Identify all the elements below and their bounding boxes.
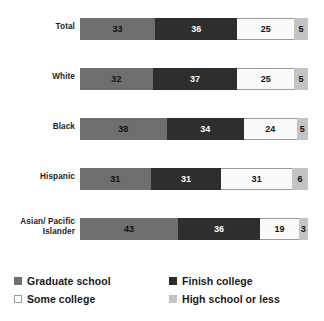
segment-high-school-or-less: 6 (292, 168, 308, 190)
bar-asian-pacific-islander: 43 36 19 3 (80, 218, 308, 240)
legend-label-some-college: Some college (27, 293, 95, 305)
legend-item-graduate-school: Graduate school (14, 275, 169, 287)
row-label-line: Total (56, 22, 75, 32)
row-label-line: Islander (20, 227, 75, 237)
legend-swatch-some-college (14, 295, 22, 303)
row-label-hispanic: Hispanic (0, 164, 75, 190)
legend-label-finish-college: Finish college (182, 275, 253, 287)
row-label-black: Black (0, 114, 75, 140)
segment-finish-college: 34 (167, 118, 245, 140)
chart-legend: Graduate school Finish college Some coll… (14, 272, 314, 308)
bar-white: 32 37 25 5 (80, 68, 308, 90)
row-label-line: White (52, 72, 75, 82)
segment-some-college: 25 (237, 18, 294, 40)
bar-black: 38 34 24 5 (80, 118, 308, 140)
segment-some-college: 24 (244, 118, 296, 140)
segment-graduate-school: 32 (80, 68, 153, 90)
segment-high-school-or-less: 5 (297, 118, 308, 140)
chart-row: Total 33 36 25 5 (0, 14, 324, 64)
segment-finish-college: 37 (153, 68, 237, 90)
row-label-asian-pacific-islander: Asian/ Pacific Islander (0, 210, 75, 244)
bar-hispanic: 31 31 31 6 (80, 168, 308, 190)
segment-some-college: 31 (221, 168, 292, 190)
stacked-bar-chart: Total 33 36 25 5 White 32 37 25 5 (0, 0, 324, 321)
segment-high-school-or-less: 5 (294, 68, 308, 90)
legend-swatch-finish-college (169, 277, 177, 285)
legend-item-finish-college: Finish college (169, 275, 324, 287)
segment-graduate-school: 31 (80, 168, 151, 190)
chart-row: Hispanic 31 31 31 6 (0, 164, 324, 214)
row-label-line: Hispanic (40, 172, 75, 182)
segment-finish-college: 36 (155, 18, 237, 40)
row-label-white: White (0, 64, 75, 90)
segment-some-college: 25 (237, 68, 294, 90)
segment-graduate-school: 38 (80, 118, 167, 140)
segment-some-college: 19 (260, 218, 299, 240)
legend-swatch-graduate-school (14, 277, 22, 285)
segment-finish-college: 36 (178, 218, 260, 240)
legend-label-high-school-or-less: High school or less (182, 293, 280, 305)
segment-graduate-school: 33 (80, 18, 155, 40)
segment-high-school-or-less: 5 (294, 18, 308, 40)
bar-total: 33 36 25 5 (80, 18, 308, 40)
chart-plot-area: Total 33 36 25 5 White 32 37 25 5 (0, 14, 324, 264)
segment-graduate-school: 43 (80, 218, 178, 240)
legend-label-graduate-school: Graduate school (27, 275, 111, 287)
row-label-line: Asian/ Pacific (20, 217, 75, 227)
legend-item-high-school-or-less: High school or less (169, 293, 324, 305)
segment-high-school-or-less: 3 (299, 218, 308, 240)
chart-row: Black 38 34 24 5 (0, 114, 324, 164)
chart-row: Asian/ Pacific Islander 43 36 19 3 (0, 214, 324, 264)
legend-swatch-high-school-or-less (169, 295, 177, 303)
segment-finish-college: 31 (151, 168, 222, 190)
legend-item-some-college: Some college (14, 293, 169, 305)
chart-row: White 32 37 25 5 (0, 64, 324, 114)
row-label-line: Black (53, 122, 75, 132)
row-label-total: Total (0, 14, 75, 40)
